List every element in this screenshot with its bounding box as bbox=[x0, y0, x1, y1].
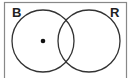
venn-diagram: B R bbox=[0, 0, 133, 78]
universal-set-frame bbox=[5, 3, 127, 79]
set-b-label: B bbox=[12, 5, 21, 20]
element-dot bbox=[41, 39, 46, 44]
set-r-label: R bbox=[110, 5, 120, 20]
